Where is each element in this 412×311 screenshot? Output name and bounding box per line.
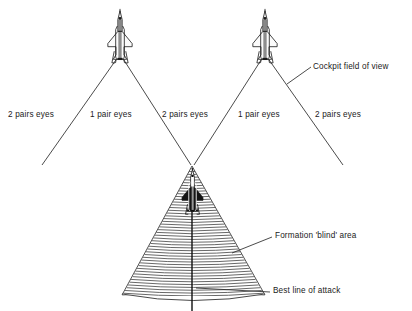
label-best-line-of-attack: Best line of attack <box>273 286 340 295</box>
label-cockpit-field-of-view: Cockpit field of view <box>313 62 389 71</box>
blind-area-leader-line <box>232 237 272 253</box>
left-fighter-icon <box>108 9 132 63</box>
label-eyes-left-inner: 1 pair eyes <box>90 110 132 119</box>
right-fighter-icon <box>253 9 277 63</box>
label-eyes-center: 2 pairs eyes <box>162 110 208 119</box>
label-eyes-right-inner: 1 pair eyes <box>238 110 280 119</box>
cockpit-fov-leader-line <box>287 67 311 84</box>
label-eyes-far-left: 2 pairs eyes <box>8 110 54 119</box>
label-formation-blind-area: Formation 'blind' area <box>275 231 357 240</box>
formation-blind-area-diagram <box>0 0 412 311</box>
label-eyes-far-right: 2 pairs eyes <box>315 110 361 119</box>
diagram-page: 2 pairs eyes 1 pair eyes 2 pairs eyes 1 … <box>0 0 412 311</box>
